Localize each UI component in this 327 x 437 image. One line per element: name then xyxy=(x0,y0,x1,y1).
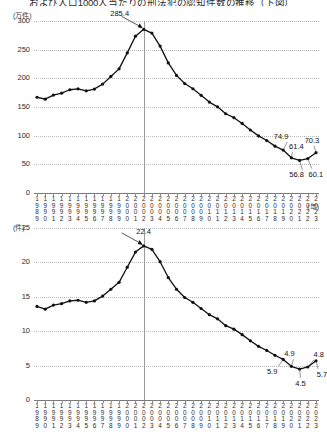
x-axis-tick-label: 2017 xyxy=(263,403,271,429)
data-point-label: 70.3 xyxy=(305,137,320,145)
x-axis-tick-label: 2019 xyxy=(279,403,287,429)
x-axis-tick-label: 1993 xyxy=(66,403,74,429)
x-axis-tick-label: 1992 xyxy=(58,196,66,222)
x-axis-tickmark xyxy=(234,400,235,403)
x-axis-tick-label: 1996 xyxy=(90,196,98,222)
x-axis-tickmark xyxy=(308,400,309,403)
data-point-label: 22.4 xyxy=(136,228,151,236)
x-axis-tick-label: 2013 xyxy=(230,403,238,429)
x-axis-tickmark xyxy=(308,193,309,196)
y-axis-tick-label: 25 xyxy=(2,224,30,232)
x-axis-tickmark xyxy=(94,400,95,403)
x-axis-tick-label: 2014 xyxy=(238,403,246,429)
x-axis-tickmark xyxy=(135,193,136,196)
x-axis-tick-label: 2001 xyxy=(131,403,139,429)
x-axis-tick-label: 1989 xyxy=(33,403,41,429)
y-axis-tick-label: 15 xyxy=(2,293,30,301)
data-point-label: 4.5 xyxy=(295,380,305,388)
x-axis-tickmark xyxy=(250,400,251,403)
y-axis-tick-label: 0 xyxy=(2,396,30,404)
data-point-label: 4.8 xyxy=(314,351,324,359)
x-axis-tick-label: 1990 xyxy=(41,196,49,222)
x-axis-tick-label: 1989 xyxy=(33,196,41,222)
x-axis-tickmark xyxy=(45,193,46,196)
x-axis-tick-label: 1999 xyxy=(115,403,123,429)
x-axis-tickmark xyxy=(103,193,104,196)
x-axis-tickmark xyxy=(111,193,112,196)
x-axis-tick-label: 2002 xyxy=(140,403,148,429)
x-axis-tickmark xyxy=(144,400,145,403)
y-axis-tick-label: 20 xyxy=(2,258,30,266)
x-axis-tickmark xyxy=(193,400,194,403)
x-axis-tickmark xyxy=(127,193,128,196)
x-axis-tickmark xyxy=(300,193,301,196)
data-point-label: 285.4 xyxy=(110,10,129,18)
x-axis-tick-label: 2003 xyxy=(148,196,156,222)
x-axis-tick-label: 1999 xyxy=(115,196,123,222)
x-axis-tickmark xyxy=(103,400,104,403)
x-axis-tickmark xyxy=(218,193,219,196)
x-axis-tickmark xyxy=(177,193,178,196)
x-axis-tick-label: 1994 xyxy=(74,196,82,222)
x-axis-tickmark xyxy=(119,193,120,196)
x-axis-tick-label: 2012 xyxy=(222,403,230,429)
x-axis-tickmark xyxy=(70,400,71,403)
y-axis-tick-label: 250 xyxy=(2,46,30,54)
chart-bottom-per-1000-population: (件) 051015202522.45.94.94.54.85.7 198919… xyxy=(0,222,323,437)
x-axis-tick-label: 2013 xyxy=(230,196,238,222)
x-axis-tickmark xyxy=(218,400,219,403)
x-axis-tick-label: 2016 xyxy=(255,403,263,429)
data-point-label: 5.7 xyxy=(317,371,327,379)
y-axis-tick-label: 150 xyxy=(2,103,30,111)
x-axis-tickmark xyxy=(37,193,38,196)
x-axis-tick-label: 2021 xyxy=(296,403,304,429)
x-axis-tick-label: 1993 xyxy=(66,196,74,222)
x-axis-tick-label: 2002 xyxy=(140,196,148,222)
x-axis-unit-top: (年) xyxy=(307,201,319,211)
x-axis-tickmark xyxy=(283,193,284,196)
data-point-label: 61.4 xyxy=(289,143,304,151)
x-axis-tickmark xyxy=(201,193,202,196)
x-axis-tickmark xyxy=(70,193,71,196)
x-axis-tick-label: 1990 xyxy=(41,403,49,429)
data-point-label: 4.9 xyxy=(284,350,294,358)
plot-area-bottom: 051015202522.45.94.94.54.85.7 xyxy=(34,228,319,400)
x-axis-tick-label: 2015 xyxy=(246,403,254,429)
data-point-label: 5.9 xyxy=(267,368,277,376)
x-axis-tick-label: 1997 xyxy=(99,403,107,429)
x-axis-tickmark xyxy=(226,193,227,196)
x-axis-tick-label: 2015 xyxy=(246,196,254,222)
x-axis-tickmark xyxy=(45,400,46,403)
x-axis-tickmark xyxy=(209,400,210,403)
x-axis-tick-label: 2000 xyxy=(123,196,131,222)
x-axis-tick-label: 2011 xyxy=(214,403,222,429)
x-axis-tickmark xyxy=(168,193,169,196)
x-axis-tickmark xyxy=(62,400,63,403)
x-axis-tickmark xyxy=(152,400,153,403)
x-axis-tickmark xyxy=(267,193,268,196)
x-axis-tick-label: 2007 xyxy=(181,196,189,222)
x-axis-tickmark xyxy=(62,193,63,196)
x-axis-tick-label: 2008 xyxy=(189,403,197,429)
x-axis-tickmark xyxy=(53,400,54,403)
x-axis-tickmark xyxy=(259,400,260,403)
y-axis-tick-label: 100 xyxy=(2,132,30,140)
x-axis-tick-label: 2004 xyxy=(156,196,164,222)
x-axis-tickmark xyxy=(193,193,194,196)
x-axis-tick-label: 1994 xyxy=(74,403,82,429)
x-axis-tickmark xyxy=(111,400,112,403)
x-axis-tickmark xyxy=(86,193,87,196)
data-point-label: 74.9 xyxy=(274,133,289,141)
y-axis-tick-label: 50 xyxy=(2,160,30,168)
x-axis-tick-label: 2010 xyxy=(205,196,213,222)
line-series xyxy=(34,21,319,195)
x-axis-tick-label: 2018 xyxy=(271,403,279,429)
x-axis-tick-label: 2005 xyxy=(164,196,172,222)
x-axis-tickmark xyxy=(234,193,235,196)
x-axis-tickmark xyxy=(316,193,317,196)
x-axis-tickmark xyxy=(209,193,210,196)
x-axis-tickmark xyxy=(242,193,243,196)
x-axis-tick-label: 2007 xyxy=(181,403,189,429)
x-axis-tickmark xyxy=(94,193,95,196)
